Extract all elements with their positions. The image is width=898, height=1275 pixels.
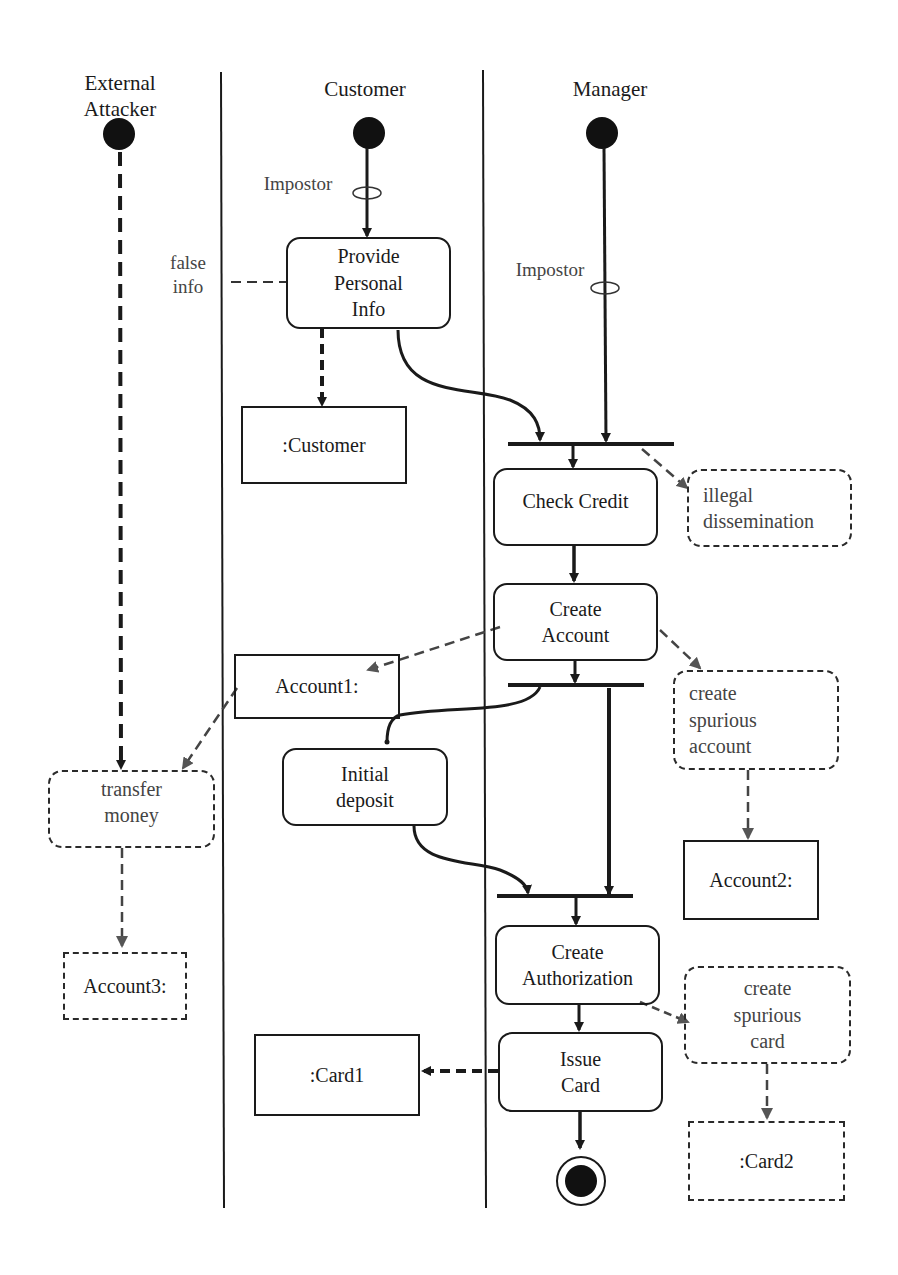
activity-provide-personal-info[interactable]: Provide Personal Info — [286, 237, 451, 329]
impostor-label-manager: Impostor — [500, 258, 600, 282]
lane-title-manager: Manager — [545, 76, 675, 102]
misuse-transfer-money[interactable]: transfer money — [48, 770, 215, 848]
lane-title-external-attacker: External Attacker — [60, 70, 180, 123]
object-account2[interactable]: Account2: — [683, 840, 819, 920]
object-card1[interactable]: :Card1 — [254, 1034, 420, 1116]
activity-create-authorization[interactable]: Create Authorization — [495, 925, 660, 1005]
misuse-object-account3[interactable]: Account3: — [63, 952, 187, 1020]
false-info-label: false info — [163, 251, 213, 299]
activity-create-account[interactable]: Create Account — [493, 583, 658, 661]
impostor-label-customer: Impostor — [248, 172, 348, 196]
activity-check-credit[interactable]: Check Credit — [493, 468, 658, 546]
initial-node-manager — [586, 117, 618, 149]
activity-issue-card[interactable]: Issue Card — [498, 1032, 663, 1112]
misuse-create-spurious-account[interactable]: create spurious account — [673, 670, 839, 770]
lane-divider-2 — [483, 70, 486, 1208]
uml-activity-diagram: External Attacker Customer Manager Impos… — [0, 0, 898, 1275]
connectors-layer — [0, 0, 898, 1275]
initial-node-attacker — [103, 118, 135, 150]
object-account1[interactable]: Account1: — [234, 654, 400, 719]
initial-node-customer — [353, 117, 385, 149]
misuse-create-spurious-card[interactable]: create spurious card — [684, 966, 851, 1064]
misuse-object-card2[interactable]: :Card2 — [688, 1121, 845, 1201]
lane-title-customer: Customer — [300, 76, 430, 102]
object-customer[interactable]: :Customer — [241, 406, 407, 484]
lane-divider-1 — [221, 72, 224, 1208]
misuse-illegal-dissemination[interactable]: illegal dissemination — [687, 469, 852, 547]
activity-initial-deposit[interactable]: Initial deposit — [282, 748, 448, 826]
final-node-core — [565, 1165, 597, 1197]
